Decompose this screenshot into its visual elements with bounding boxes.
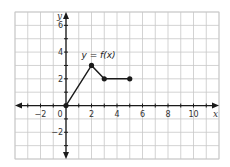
series-f-of-x	[63, 63, 132, 108]
x-tick-label: 10	[188, 110, 198, 119]
y-axis-arrow-down-icon	[63, 152, 69, 159]
x-tick-label: 8	[165, 110, 170, 119]
data-point	[63, 103, 68, 108]
x-tick-label: 0	[57, 110, 62, 119]
function-graph: −20246810−2246 x y y = f(x)	[0, 0, 230, 167]
y-tick-label: −2	[51, 128, 63, 137]
y-tick-label: 6	[58, 21, 63, 30]
y-tick-label: 2	[58, 75, 63, 84]
data-point	[127, 76, 132, 81]
data-point	[89, 63, 94, 68]
x-axis-label: x	[213, 109, 218, 119]
data-point	[102, 76, 107, 81]
function-label: y = f(x)	[81, 50, 116, 60]
x-axis-arrow-left-icon	[15, 103, 22, 109]
y-tick-label: 4	[58, 48, 63, 57]
grid	[15, 12, 219, 159]
x-tick-label: 6	[140, 110, 145, 119]
x-tick-label: −2	[35, 110, 47, 119]
y-axis-label: y	[56, 11, 63, 21]
x-tick-label: 4	[114, 110, 119, 119]
function-line	[66, 65, 130, 105]
x-tick-label: 2	[89, 110, 94, 119]
y-axis-arrow-up-icon	[63, 12, 69, 19]
